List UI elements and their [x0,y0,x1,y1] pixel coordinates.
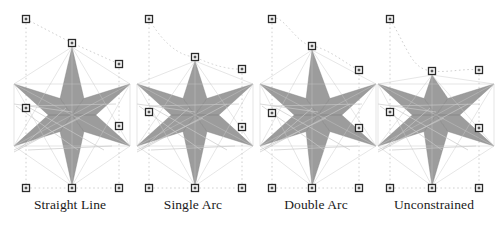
bounding-box-top-edge[interactable] [390,19,479,71]
panel-double-arc: Double Arc [254,0,378,225]
mesh-edge [137,146,195,186]
handle-center-dot [271,112,274,115]
handle-center-dot [271,18,274,21]
mesh-edge [72,146,130,186]
handle-bottom-middle[interactable] [69,185,76,192]
panel-straight-line: Straight Line [8,0,132,225]
handle-top-right[interactable] [356,67,363,74]
handle-center-dot [431,70,434,73]
handle-center-dot [71,42,74,45]
handle-bottom-right[interactable] [116,185,123,192]
handle-top-middle[interactable] [192,54,199,61]
handle-center-dot [148,187,151,190]
handle-center-dot [25,18,28,21]
panel-unconstrained: Unconstrained [372,0,495,225]
handle-center-dot [311,45,314,48]
figure-root: Straight LineSingle ArcDouble ArcUnconst… [0,0,495,225]
handle-bottom-right[interactable] [356,185,363,192]
handle-bottom-middle[interactable] [429,185,436,192]
handle-top-middle[interactable] [309,43,316,50]
canvas-unconstrained[interactable] [372,0,495,196]
mesh-edge [260,50,312,84]
handle-top-right[interactable] [116,61,123,68]
mesh-edge [378,75,432,84]
handle-top-left[interactable] [146,16,153,23]
handle-mid-right[interactable] [356,125,363,132]
mesh-edge [260,146,312,186]
handle-mid-left[interactable] [269,110,276,117]
handle-center-dot [358,69,361,72]
handle-center-dot [194,187,197,190]
handle-center-dot [194,56,197,59]
panel-caption: Unconstrained [372,198,495,212]
handle-mid-right[interactable] [239,124,246,131]
handle-center-dot [478,187,481,190]
handle-mid-left[interactable] [23,105,30,112]
handle-bottom-left[interactable] [23,185,30,192]
mesh-edge [195,146,253,186]
handle-top-right[interactable] [239,66,246,73]
handle-center-dot [71,187,74,190]
handle-top-middle[interactable] [429,68,436,75]
handle-center-dot [478,127,481,130]
handle-center-dot [118,63,121,66]
mesh-edge [14,47,72,84]
canvas-double-arc[interactable] [254,0,378,196]
handle-center-dot [148,111,151,114]
canvas-straight-line[interactable] [8,0,132,196]
mesh-edge [378,146,432,186]
handle-bottom-right[interactable] [476,185,483,192]
handle-top-middle[interactable] [69,40,76,47]
handle-top-left[interactable] [387,16,394,23]
handle-center-dot [389,18,392,21]
handle-bottom-middle[interactable] [309,185,316,192]
handle-center-dot [118,125,121,128]
handle-bottom-left[interactable] [146,185,153,192]
handle-bottom-right[interactable] [239,185,246,192]
handle-top-left[interactable] [23,16,30,23]
handle-center-dot [358,187,361,190]
handle-center-dot [118,187,121,190]
panel-caption: Double Arc [254,198,378,212]
handle-mid-right[interactable] [476,125,483,132]
handle-center-dot [241,68,244,71]
mesh-edge [14,146,72,186]
panel-caption: Straight Line [8,198,132,212]
handle-center-dot [311,187,314,190]
handle-bottom-left[interactable] [269,185,276,192]
mesh-edge [432,75,494,84]
panel-single-arc: Single Arc [131,0,255,225]
mesh-edge [137,61,195,84]
handle-center-dot [478,69,481,72]
handle-center-dot [241,187,244,190]
handle-center-dot [389,111,392,114]
star-shape[interactable] [137,61,253,186]
star-shape[interactable] [14,47,130,186]
handle-center-dot [148,18,151,21]
handle-bottom-middle[interactable] [192,185,199,192]
handle-bottom-left[interactable] [387,185,394,192]
handle-top-left[interactable] [269,16,276,23]
panel-caption: Single Arc [131,198,255,212]
handle-mid-left[interactable] [387,109,394,116]
handle-center-dot [271,187,274,190]
handle-top-right[interactable] [476,67,483,74]
handle-center-dot [358,127,361,130]
handle-mid-right[interactable] [116,123,123,130]
handle-center-dot [241,126,244,129]
handle-center-dot [389,187,392,190]
handle-center-dot [25,107,28,110]
handle-center-dot [431,187,434,190]
handle-mid-left[interactable] [146,109,153,116]
canvas-single-arc[interactable] [131,0,255,196]
handle-center-dot [25,187,28,190]
